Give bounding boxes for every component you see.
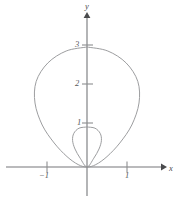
y-tick-label-2: 2: [75, 79, 79, 88]
y-tick-label-1: 1: [77, 118, 81, 127]
y-tick-label-3: 3: [75, 40, 79, 49]
x-tick-label-1: 1: [125, 171, 129, 180]
polar-curve-figure: y x 3 2 1 −1 1: [0, 0, 180, 202]
x-tick-label--1: −1: [39, 171, 49, 180]
x-axis-label: x: [169, 164, 173, 173]
y-axis-label: y: [85, 2, 89, 11]
x-axis-arrowhead: [161, 164, 167, 171]
plot-canvas: [0, 0, 180, 202]
y-axis-arrowhead: [84, 12, 91, 18]
